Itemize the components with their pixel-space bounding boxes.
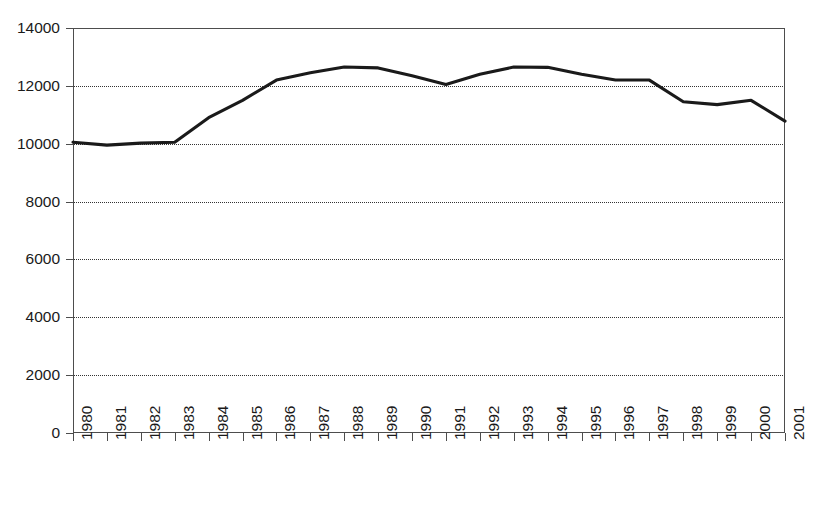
- x-axis-tick-label: 1989: [384, 406, 400, 440]
- x-axis-tick-label: 1985: [249, 406, 265, 440]
- x-axis-tick-label: 1986: [282, 406, 298, 440]
- x-axis-tick: [683, 433, 684, 441]
- y-axis-tick: [66, 317, 73, 318]
- y-axis-tick: [66, 202, 73, 203]
- x-axis-tick-label: 1980: [79, 406, 95, 440]
- x-axis-tick-label: 1995: [588, 406, 604, 440]
- x-axis-tick-label: 2001: [791, 406, 807, 440]
- x-axis-tick-label: 1983: [181, 406, 197, 440]
- x-axis-tick: [548, 433, 549, 441]
- x-axis-tick-label: 2000: [757, 406, 773, 440]
- x-axis-tick: [141, 433, 142, 441]
- x-axis-tick-label: 1999: [723, 406, 739, 440]
- x-axis-tick: [310, 433, 311, 441]
- x-axis-tick-label: 1984: [215, 406, 231, 440]
- x-axis-tick-label: 1992: [486, 406, 502, 440]
- x-axis-tick-label: 1991: [452, 406, 468, 440]
- x-axis-tick: [107, 433, 108, 441]
- x-axis-tick: [209, 433, 210, 441]
- y-axis-tick-label: 2000: [0, 367, 60, 383]
- x-axis-tick: [717, 433, 718, 441]
- x-axis-tick: [276, 433, 277, 441]
- y-axis-tick: [66, 259, 73, 260]
- x-axis-tick: [785, 433, 786, 441]
- x-axis-tick-label: 1981: [113, 406, 129, 440]
- y-axis-tick: [66, 86, 73, 87]
- x-axis-tick-label: 1994: [554, 406, 570, 440]
- y-axis-tick: [66, 433, 73, 434]
- x-axis-tick-label: 1982: [147, 406, 163, 440]
- x-axis-tick: [615, 433, 616, 441]
- x-axis-tick: [446, 433, 447, 441]
- x-axis-tick-label: 1996: [621, 406, 637, 440]
- y-axis-tick: [66, 375, 73, 376]
- y-axis-tick-label: 4000: [0, 309, 60, 325]
- x-axis-tick: [175, 433, 176, 441]
- x-axis-tick: [480, 433, 481, 441]
- y-axis-tick-label: 14000: [0, 20, 60, 36]
- line-chart: 02000400060008000100001200014000 1980198…: [0, 0, 818, 515]
- x-axis-tick-label: 1987: [316, 406, 332, 440]
- y-axis-tick-label: 0: [0, 425, 60, 441]
- x-axis-tick-label: 1993: [520, 406, 536, 440]
- x-axis-tick: [378, 433, 379, 441]
- y-axis-tick: [66, 144, 73, 145]
- x-axis-tick: [412, 433, 413, 441]
- y-axis-tick-label: 8000: [0, 194, 60, 210]
- y-axis-tick-label: 10000: [0, 136, 60, 152]
- x-axis-tick: [243, 433, 244, 441]
- x-axis-tick-label: 1988: [350, 406, 366, 440]
- x-axis-tick-label: 1998: [689, 406, 705, 440]
- y-axis-tick: [66, 28, 73, 29]
- x-axis-tick: [751, 433, 752, 441]
- x-axis-tick: [649, 433, 650, 441]
- x-axis-tick: [344, 433, 345, 441]
- x-axis-tick-label: 1997: [655, 406, 671, 440]
- x-axis-tick-label: 1990: [418, 406, 434, 440]
- x-axis-tick: [582, 433, 583, 441]
- y-axis-tick-label: 6000: [0, 251, 60, 267]
- y-axis-tick-label: 12000: [0, 78, 60, 94]
- plot-area-border: [73, 28, 785, 433]
- x-axis-tick: [73, 433, 74, 441]
- x-axis-tick: [514, 433, 515, 441]
